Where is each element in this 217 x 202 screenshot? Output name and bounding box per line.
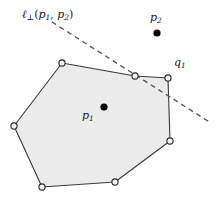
figure-canvas: ℓ⊥(p1, p2) p2 p1 q1: [0, 0, 217, 202]
p2-subscript: 2: [157, 16, 162, 25]
vertex-bottom-left: [39, 184, 45, 190]
point-p2-dot: [153, 29, 160, 36]
p1-subscript: 1: [89, 114, 94, 123]
label-perpendicular-bisector: ℓ⊥(p1, p2): [22, 9, 73, 22]
vertex-bottom-right: [112, 179, 118, 185]
geometry-figure-svg: [0, 0, 217, 202]
vertex-top-mid: [132, 73, 138, 79]
q1-subscript: 1: [181, 61, 186, 70]
bisector-close-paren: ): [69, 8, 73, 21]
point-p1-dot: [100, 103, 107, 110]
label-q1: q1: [174, 57, 186, 69]
vertex-top-left: [59, 60, 65, 66]
p2-base: p: [150, 11, 157, 24]
q1-base: q: [174, 56, 181, 69]
bisector-perp-symbol: ⊥: [27, 13, 35, 22]
label-p2: p2: [150, 12, 162, 24]
p1-base: p: [82, 109, 89, 122]
vertex-left: [11, 123, 17, 129]
label-p1: p1: [82, 110, 94, 122]
vertex-q1: [165, 75, 171, 81]
vertex-right: [167, 138, 173, 144]
